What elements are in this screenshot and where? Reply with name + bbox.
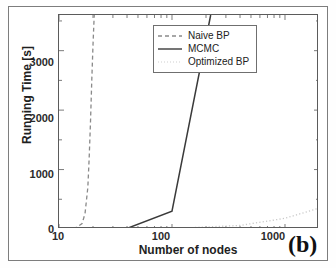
legend-swatch-dotted-icon bbox=[157, 57, 183, 67]
legend-box: Naive BP MCMC Optimized BP bbox=[153, 25, 257, 73]
legend-swatch-solid-icon bbox=[157, 44, 183, 54]
x-tick-label-100: 100 bbox=[139, 231, 183, 242]
x-axis-label: Number of nodes bbox=[58, 243, 318, 257]
y-tick-label-1000: 1000 bbox=[8, 169, 54, 180]
legend-swatch-dashed-icon bbox=[157, 31, 183, 41]
legend-label-naive-bp: Naive BP bbox=[188, 31, 230, 41]
x-tick-label-10: 10 bbox=[36, 231, 80, 242]
y-axis-label: Running Time [s] bbox=[20, 25, 34, 165]
panel-label: (b) bbox=[288, 232, 317, 256]
legend-entry-optimized-bp: Optimized BP bbox=[157, 56, 252, 68]
legend-label-mcmc: MCMC bbox=[188, 44, 219, 54]
figure-container: 3000 2000 1000 0 10 100 1000 Running Tim… bbox=[0, 0, 336, 268]
legend-entry-mcmc: MCMC bbox=[157, 43, 252, 55]
legend-entry-naive-bp: Naive BP bbox=[157, 30, 252, 42]
legend-label-optimized-bp: Optimized BP bbox=[188, 57, 249, 67]
series-line-optimized-bp bbox=[59, 208, 318, 228]
series-line-naive-bp bbox=[59, 15, 94, 228]
